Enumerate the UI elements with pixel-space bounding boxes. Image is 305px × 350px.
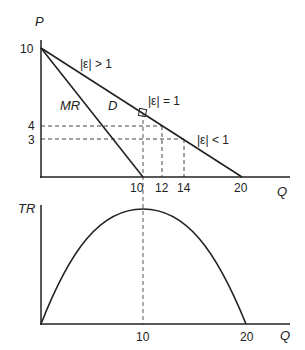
tick-q20: 20 [234,181,248,195]
p-axis-label: P [35,14,44,29]
tick-q10: 10 [130,181,144,195]
tick-q12: 12 [155,181,169,195]
mr-label: MR [60,98,80,113]
economics-diagram: P 10 4 3 10 12 14 20 Q MR D |ε| > 1 |ε| … [0,0,305,350]
tick-p4: 4 [28,119,35,133]
tick-p3: 3 [28,133,35,147]
elastic-label: |ε| > 1 [80,57,112,71]
tick-q14: 14 [177,181,191,195]
tick-p10: 10 [20,42,34,56]
d-label: D [108,98,117,113]
tick-bq10: 10 [136,330,150,344]
tick-bq20: 20 [240,330,254,344]
total-revenue-panel: TR 10 20 Q [18,171,290,344]
q-axis-label-bottom: Q [280,328,290,343]
demand-panel: P 10 4 3 10 12 14 20 Q MR D |ε| > 1 |ε| … [20,14,290,324]
q-axis-label: Q [277,184,287,199]
tr-axis-label: TR [18,201,35,216]
inelastic-label: |ε| < 1 [197,133,229,147]
unit-elastic-label: |ε| = 1 [148,94,180,108]
